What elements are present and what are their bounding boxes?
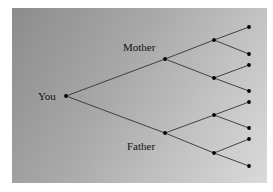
label-father: Father <box>127 141 155 152</box>
label-you: You <box>38 91 56 102</box>
node-you <box>64 94 68 98</box>
node-grandparent <box>212 151 216 155</box>
node-grandparent <box>212 113 216 117</box>
node-great-grandparent <box>247 164 251 168</box>
node-great-grandparent <box>247 25 251 29</box>
node-grandparent <box>212 38 216 42</box>
node-great-grandparent <box>247 89 251 93</box>
node-father <box>163 131 167 135</box>
node-great-grandparent <box>247 100 251 104</box>
node-great-grandparent <box>247 137 251 141</box>
node-great-grandparent <box>247 63 251 67</box>
node-great-grandparent <box>247 126 251 130</box>
node-mother <box>163 57 167 61</box>
node-grandparent <box>212 76 216 80</box>
tree-edges <box>66 27 249 166</box>
label-mother: Mother <box>123 42 155 53</box>
tree-nodes <box>64 25 251 168</box>
node-great-grandparent <box>247 52 251 56</box>
